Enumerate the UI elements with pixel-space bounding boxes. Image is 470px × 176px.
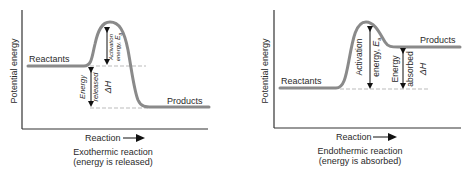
delta-h-symbol: ΔH bbox=[103, 80, 113, 94]
delta-h-symbol: ΔH bbox=[418, 62, 428, 76]
exothermic-diagram: Potential energy Reactants Products Acti… bbox=[9, 10, 209, 167]
caption-line2: (energy is released) bbox=[73, 157, 153, 167]
activation-label-line2: energy, Ea bbox=[114, 32, 123, 61]
caption-line1: Endothermic reaction bbox=[317, 146, 402, 156]
reaction-arrow-icon bbox=[388, 133, 397, 141]
activation-label-line1: Activation bbox=[354, 38, 364, 75]
delta-label-line1: Energy bbox=[390, 55, 400, 83]
caption-line2: (energy is absorbed) bbox=[319, 156, 402, 166]
delta-label-line2: released bbox=[91, 72, 100, 102]
x-axis-label: Reaction bbox=[336, 132, 372, 142]
reactants-label: Reactants bbox=[29, 54, 70, 64]
reaction-arrow-icon bbox=[136, 134, 145, 142]
activation-label-line2: energy, Ea bbox=[371, 37, 382, 77]
delta-label-line2: absorbed bbox=[405, 51, 415, 87]
products-label: Products bbox=[167, 96, 203, 106]
reactants-label: Reactants bbox=[281, 76, 322, 86]
endothermic-diagram: Potential energy Reactants Products Acti… bbox=[260, 10, 461, 166]
caption-line1: Exothermic reaction bbox=[73, 147, 153, 157]
y-axis-label: Potential energy bbox=[260, 38, 270, 104]
y-axis-label: Potential energy bbox=[9, 38, 19, 104]
x-axis-label: Reaction bbox=[85, 133, 121, 143]
energy-diagrams: Potential energy Reactants Products Acti… bbox=[0, 0, 470, 176]
delta-label-line1: Energy bbox=[78, 74, 87, 99]
products-label: Products bbox=[420, 35, 456, 45]
